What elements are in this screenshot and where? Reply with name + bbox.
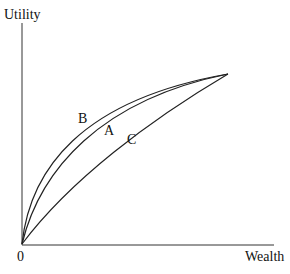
curve-a bbox=[22, 74, 228, 244]
curve-b bbox=[22, 74, 228, 244]
curve-a-label: A bbox=[104, 124, 114, 138]
y-axis-label: Utility bbox=[4, 8, 41, 22]
utility-diagram: Utility Wealth 0 B A C bbox=[0, 0, 290, 274]
curve-c-label: C bbox=[127, 133, 136, 147]
origin-label: 0 bbox=[17, 250, 24, 264]
curve-b-label: B bbox=[78, 112, 87, 126]
curve-c bbox=[22, 74, 228, 244]
diagram-canvas bbox=[0, 0, 290, 274]
x-axis-label: Wealth bbox=[245, 250, 284, 264]
